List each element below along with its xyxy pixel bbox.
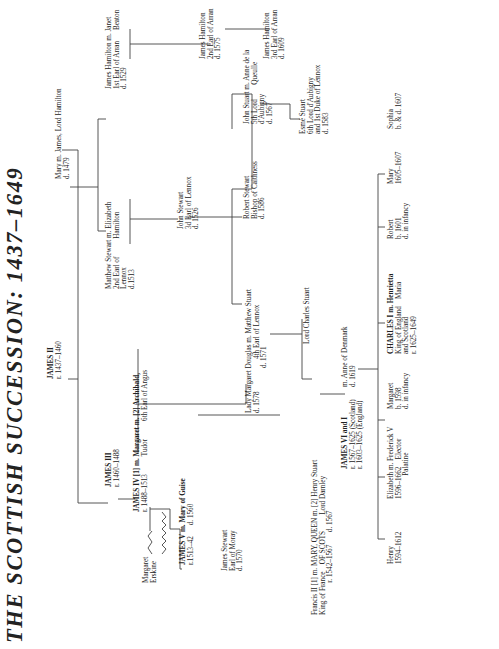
person-anne-of-denmark: m. Anne of Denmarkd. 1619 <box>342 326 357 387</box>
person-mary-hamilton: Mary m. James, Lord Hamiltond. 1479 <box>56 88 71 179</box>
person-james-hamilton-2nd: James Hamilton2nd Earl of Arrand. 1575 <box>200 9 223 60</box>
family-tree-diagram: THE SCOTTISH SUCCESSION: 1437–1649 <box>0 0 499 649</box>
person-robert-stewart-caithness: Robert StewartBishop of Caithnessd. 1586 <box>244 161 267 219</box>
person-james-hamilton-1st: James Hamilton m. Janet1st Earl of Arran… <box>106 10 129 89</box>
person-james-v: JAMES V m. Mary of Guiser.1513–42 d. 156… <box>180 478 195 565</box>
person-james-iv: JAMES IV [1] m. Margaret m. [2] Archibal… <box>134 370 149 512</box>
person-margaret-1598: Margaretb. 1598d. in infancy <box>388 373 411 409</box>
person-mary-1605: Mary1605–1607 <box>388 152 403 184</box>
person-sophia: Sophiab. & d. 1607 <box>388 93 403 129</box>
person-elizabeth: Elizabeth m. Frederick V1596–1662 Electo… <box>388 426 411 499</box>
person-james-vi-and-i: JAMES VI and Ir. 1567–1625 (Scotland)r. … <box>342 399 365 469</box>
person-matthew-stewart-2nd: Matthew Stewart m. Elizabeth2nd Earl of … <box>106 202 136 289</box>
person-james-stewart-moray: James StewartEarl of Morayd. 1570 <box>222 530 245 571</box>
person-james-ii: JAMES IIr. 1437–1460 <box>48 341 63 379</box>
person-henry: Henry1594–1612 <box>388 532 403 564</box>
person-margaret-erskine: MargaretErskine <box>143 557 158 583</box>
person-mary-queen-of-scots: Francis II [1] m. MARY, QUEEN m. [2] Hen… <box>312 460 335 615</box>
person-john-stewart-3d: John Stewart3d Earl of Lennoxd. 1526 <box>178 177 201 230</box>
person-esme-stuart: Esmé Stuart6th Lord d'Aubignyand 1st Duk… <box>300 65 330 134</box>
person-lord-charles-stuart: Lord Charles Stuart <box>304 287 312 344</box>
person-john-stuart-aubigny: John Stuart m. Anne de la5th Lord Queull… <box>244 50 274 124</box>
person-james-iii: JAMES IIIr. 1460–1488 <box>106 449 121 487</box>
person-lady-margaret-douglas: Lady Margaret Douglas m. Matthew Stuartd… <box>246 289 269 413</box>
person-charles-i: CHARLES I m. HenriettaKing of England Ma… <box>388 274 418 354</box>
person-robert-1601: Robertb. 1601d. in infancy <box>388 203 411 239</box>
